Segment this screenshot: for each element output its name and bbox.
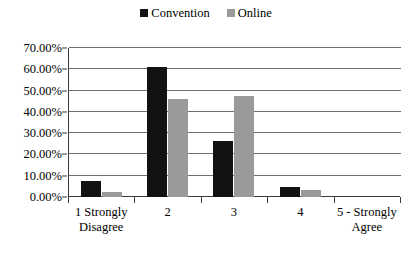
bar-convention-4 [280, 187, 300, 197]
bar-group-5 [334, 48, 400, 197]
x-tick-label-1: 1 Strongly Disagree [68, 205, 134, 235]
legend-label-online: Online [238, 7, 272, 19]
bar-group-1 [68, 48, 134, 197]
y-tick-label-60: 60.00% [23, 63, 62, 75]
y-tick-mark-20 [62, 154, 67, 155]
legend-swatch-online-icon [227, 9, 235, 17]
bar-convention-2 [147, 67, 167, 197]
legend-item-convention: Convention [140, 7, 209, 19]
y-axis: 70.00% 60.00% 50.00% 40.00% 30.00% 20.00… [0, 48, 62, 197]
y-tick-mark-10 [62, 175, 67, 176]
bar-online-4 [301, 190, 321, 197]
bar-group-2 [134, 48, 200, 197]
y-tick-mark-60 [62, 69, 67, 70]
chart-legend: Convention Online [0, 7, 412, 19]
legend-label-convention: Convention [151, 7, 209, 19]
x-tick-mark-0 [68, 197, 69, 203]
bar-online-2 [168, 99, 188, 197]
x-tick-mark-3 [267, 197, 268, 203]
legend-swatch-convention-icon [140, 9, 148, 17]
y-tick-label-0: 0.00% [30, 191, 62, 203]
y-tick-mark-70 [62, 48, 67, 49]
x-axis: 1 Strongly Disagree 2 3 4 5 - Strongly A… [68, 205, 400, 267]
x-tick-mark-2 [201, 197, 202, 203]
bar-convention-1 [81, 181, 101, 197]
y-tick-label-70: 70.00% [23, 42, 62, 54]
x-tick-label-3: 3 [201, 205, 267, 220]
grouped-bar-chart: Convention Online 70.00% 60.00% 50.00% 4… [0, 0, 412, 270]
y-tick-mark-40 [62, 111, 67, 112]
y-tick-mark-30 [62, 133, 67, 134]
x-tick-mark-4 [334, 197, 335, 203]
y-tick-mark-50 [62, 90, 67, 91]
bars-layer [68, 48, 400, 197]
y-tick-mark-0 [62, 197, 67, 198]
legend-item-online: Online [227, 7, 272, 19]
y-tick-label-30: 30.00% [23, 127, 62, 139]
bar-group-4 [267, 48, 333, 197]
bar-group-3 [201, 48, 267, 197]
x-tick-mark-5 [400, 197, 401, 203]
y-tick-label-10: 10.00% [23, 170, 62, 182]
x-tick-mark-1 [134, 197, 135, 203]
bar-convention-3 [213, 141, 233, 197]
bar-online-1 [102, 192, 122, 197]
y-tick-label-20: 20.00% [23, 148, 62, 160]
x-tick-label-4: 4 [267, 205, 333, 220]
x-tick-label-5: 5 - Strongly Agree [334, 205, 400, 235]
bar-online-3 [234, 96, 254, 197]
y-tick-label-50: 50.00% [23, 85, 62, 97]
y-tick-label-40: 40.00% [23, 106, 62, 118]
x-tick-label-2: 2 [134, 205, 200, 220]
